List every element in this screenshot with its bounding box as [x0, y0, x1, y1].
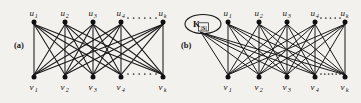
ellipsis-dot	[155, 73, 157, 75]
vertex-label-subscript: 1	[229, 86, 232, 93]
vertex-label-subscript: 3	[93, 12, 97, 19]
ellipsis-dot	[328, 73, 330, 75]
vertex-label-subscript: 4	[316, 86, 319, 93]
figure-container: u1u2u3u4ukv1v2v3v4vkK|S|u1u2u3u4ukv1v2v3…	[0, 0, 361, 103]
vertex-label-subscript: 1	[35, 12, 38, 19]
ellipsis-dot	[339, 73, 341, 75]
vertex-label: u	[283, 8, 288, 18]
ellipsis-dot	[133, 17, 135, 19]
vertex-label-subscript: k	[164, 86, 167, 93]
ellipsis-dot	[332, 73, 334, 75]
vertex-label: u	[255, 8, 260, 18]
graph-vertex	[63, 20, 68, 25]
ellipsis-dot	[325, 17, 327, 19]
ellipsis-dot	[320, 17, 322, 19]
ellipsis-dot	[320, 73, 322, 75]
ellipsis-dot	[144, 73, 146, 75]
vertex-label: v	[30, 82, 34, 92]
ellipsis-dot	[155, 17, 157, 19]
vertex-label: v	[117, 82, 121, 92]
vertex-label-subscript: 3	[287, 86, 291, 93]
ellipsis-dot	[324, 73, 326, 75]
graph-vertex	[63, 75, 68, 80]
graph-vertex	[257, 20, 262, 25]
graph-vertex	[343, 75, 348, 80]
graph-vertex	[161, 75, 166, 80]
clique-label: K	[193, 19, 200, 29]
ellipsis-dot	[133, 73, 135, 75]
graph-vertex	[343, 20, 348, 25]
vertex-label: v	[341, 82, 345, 92]
vertex-label: u	[311, 8, 316, 18]
panel-label-b: (b)	[181, 40, 192, 50]
panel-a-edges	[34, 24, 163, 75]
vertex-label-subscript: k	[346, 12, 349, 19]
vertex-label-subscript: 2	[260, 86, 263, 93]
vertex-label-subscript: 4	[122, 86, 125, 93]
vertex-label: u	[341, 8, 346, 18]
vertex-label-subscript: k	[164, 12, 167, 19]
ellipsis-dot	[150, 17, 152, 19]
ellipsis-dot	[127, 17, 129, 19]
ellipsis-dot	[138, 17, 140, 19]
ellipsis-dot	[330, 17, 332, 19]
vertex-label: u	[224, 8, 229, 18]
graph-vertex	[161, 20, 166, 25]
vertex-label: u	[61, 8, 66, 18]
ellipsis-dot	[127, 73, 129, 75]
ellipsis-dot	[138, 73, 140, 75]
vertex-label: v	[255, 82, 259, 92]
vertex-label: u	[159, 8, 164, 18]
vertex-label: u	[30, 8, 35, 18]
graph-vertex	[226, 75, 231, 80]
graph-vertex	[285, 20, 290, 25]
vertex-label: v	[159, 82, 163, 92]
vertex-label-subscript: 2	[66, 86, 69, 93]
vertex-label-subscript: 3	[287, 12, 291, 19]
vertex-label: u	[89, 8, 94, 18]
vertex-label: v	[89, 82, 93, 92]
graph-vertex	[91, 75, 96, 80]
vertex-label-subscript: 2	[66, 12, 69, 19]
ellipsis-dot	[144, 17, 146, 19]
clique-edge	[201, 33, 315, 75]
vertex-label: u	[117, 8, 122, 18]
clique-label-subscript: |S|	[201, 24, 207, 31]
vertex-label-subscript: 1	[229, 12, 232, 19]
ellipsis-dot	[335, 73, 337, 75]
graph-vertex	[91, 20, 96, 25]
graph-vertex	[313, 20, 318, 25]
vertex-label-subscript: 2	[260, 12, 263, 19]
ellipsis-dot	[334, 17, 336, 19]
vertex-label: v	[311, 82, 315, 92]
bipartite-graph-figure: u1u2u3u4ukv1v2v3v4vkK|S|u1u2u3u4ukv1v2v3…	[0, 0, 361, 103]
graph-vertex	[257, 75, 262, 80]
vertex-label: v	[283, 82, 287, 92]
vertex-label-subscript: k	[346, 86, 349, 93]
graph-vertex	[313, 75, 318, 80]
vertex-label-subscript: 3	[93, 86, 97, 93]
vertex-label: v	[224, 82, 228, 92]
vertex-label-subscript: 1	[35, 86, 38, 93]
vertex-label: v	[61, 82, 65, 92]
vertex-label-subscript: 4	[316, 12, 319, 19]
vertex-label-subscript: 4	[122, 12, 125, 19]
graph-vertex	[226, 20, 231, 25]
graph-vertex	[32, 75, 37, 80]
graph-vertex	[285, 75, 290, 80]
ellipsis-dot	[150, 73, 152, 75]
graph-vertex	[119, 20, 124, 25]
graph-vertex	[119, 75, 124, 80]
graph-vertex	[32, 20, 37, 25]
panel-label-a: (a)	[14, 40, 24, 50]
